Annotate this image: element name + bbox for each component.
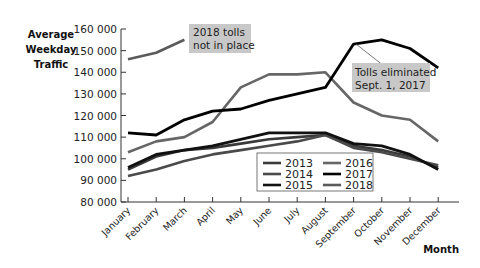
y-axis-title: Average (28, 29, 75, 40)
annotation-leader-line (356, 44, 384, 66)
y-tick-label: 80 000 (80, 196, 117, 208)
x-tick-label: June (250, 205, 273, 228)
y-tick-label: 130 000 (74, 88, 117, 100)
annotation-2018-line1: 2018 tolls (193, 26, 245, 38)
y-axis-title: Traffic (34, 59, 69, 70)
y-tick-label: 110 000 (74, 131, 117, 143)
annotations: 2018 tollsnot in placeTolls eliminatedSe… (189, 24, 436, 92)
y-tick-label: 120 000 (74, 110, 117, 122)
y-tick-label: 140 000 (74, 66, 117, 78)
series-2018-line (128, 40, 184, 60)
y-tick-label: 90 000 (80, 174, 117, 186)
legend-label-2018: 2018 (345, 179, 373, 192)
y-tick-label: 100 000 (74, 153, 117, 165)
legend-label-2015: 2015 (285, 179, 313, 192)
y-tick-label: 160 000 (74, 23, 117, 35)
annotation-2018-line2: not in place (193, 39, 255, 51)
x-axis-title: Month (423, 244, 459, 255)
x-tick-label: March (161, 205, 189, 233)
x-tick-label: April (194, 205, 217, 228)
y-tick-label: 150 000 (74, 45, 117, 57)
legend: 201320142015201620172018 (257, 153, 373, 192)
y-axis-title: Weekday (25, 44, 76, 55)
line-chart: 80 00090 000100 000110 000120 000130 000… (0, 0, 480, 268)
x-tick-label: May (224, 204, 246, 226)
annotation-tolls-line1: Tolls eliminated (354, 66, 436, 78)
x-tick-label: July (281, 204, 302, 225)
annotation-tolls-line2: Sept. 1, 2017 (355, 79, 426, 91)
